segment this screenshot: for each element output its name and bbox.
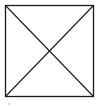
diagram-canvas [0, 0, 99, 107]
stray-dot-mark [8, 103, 9, 104]
